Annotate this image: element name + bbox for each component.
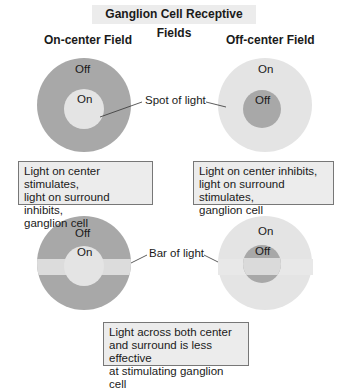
- surround-label: Off: [75, 63, 90, 75]
- surround-label: On: [258, 225, 273, 237]
- center-label: On: [77, 93, 92, 105]
- caption-line: Light on center stimulates,: [24, 165, 147, 191]
- caption-line: and surround is less effective: [109, 339, 243, 365]
- caption-line: Light across both center: [109, 326, 243, 339]
- surround-label: On: [258, 63, 273, 75]
- caption-line: light on surround inhibits,: [24, 191, 147, 217]
- caption-line: ganglion cell: [24, 217, 147, 230]
- caption-line: ganglion cell: [199, 204, 328, 217]
- bar-of-light-label: Bar of light: [149, 247, 204, 259]
- caption-on-center: Light on center stimulates, light on sur…: [18, 161, 153, 205]
- caption-off-center: Light on center inhibits, light on surro…: [193, 161, 334, 205]
- spot-of-light-label: Spot of light: [145, 94, 206, 106]
- caption-line: light on surround stimulates,: [199, 178, 328, 204]
- center-label: On: [77, 246, 92, 258]
- caption-line: at stimulating ganglion cell: [109, 365, 243, 391]
- caption-bar: Light across both center and surround is…: [103, 322, 249, 366]
- center-label: Off: [255, 94, 270, 106]
- caption-line: Light on center inhibits,: [199, 165, 328, 178]
- center-label: Off: [255, 245, 270, 257]
